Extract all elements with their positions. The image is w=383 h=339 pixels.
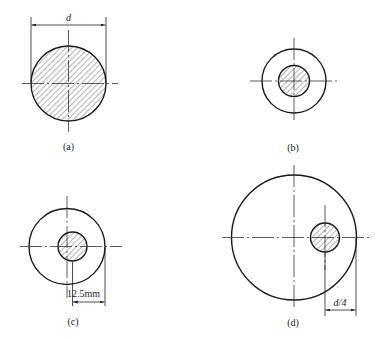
figure-c: 12.5mm (c) [20, 196, 122, 328]
dimension-label-12-5mm: 12.5mm [67, 288, 100, 299]
caption-b: (b) [287, 142, 299, 154]
figure-b: (b) [250, 38, 338, 154]
figure-a: d (a) [22, 12, 118, 153]
caption-d: (d) [287, 317, 299, 329]
caption-c: (c) [67, 316, 78, 328]
figure-d: d/4 (d) [222, 165, 370, 329]
dimension-label-d4: d/4 [334, 297, 347, 308]
caption-a: (a) [63, 141, 74, 153]
cross-section-diagram: d (a) (b) 12.5mm (c) d/4 (d) [0, 0, 383, 339]
dimension-label-d: d [66, 12, 72, 23]
